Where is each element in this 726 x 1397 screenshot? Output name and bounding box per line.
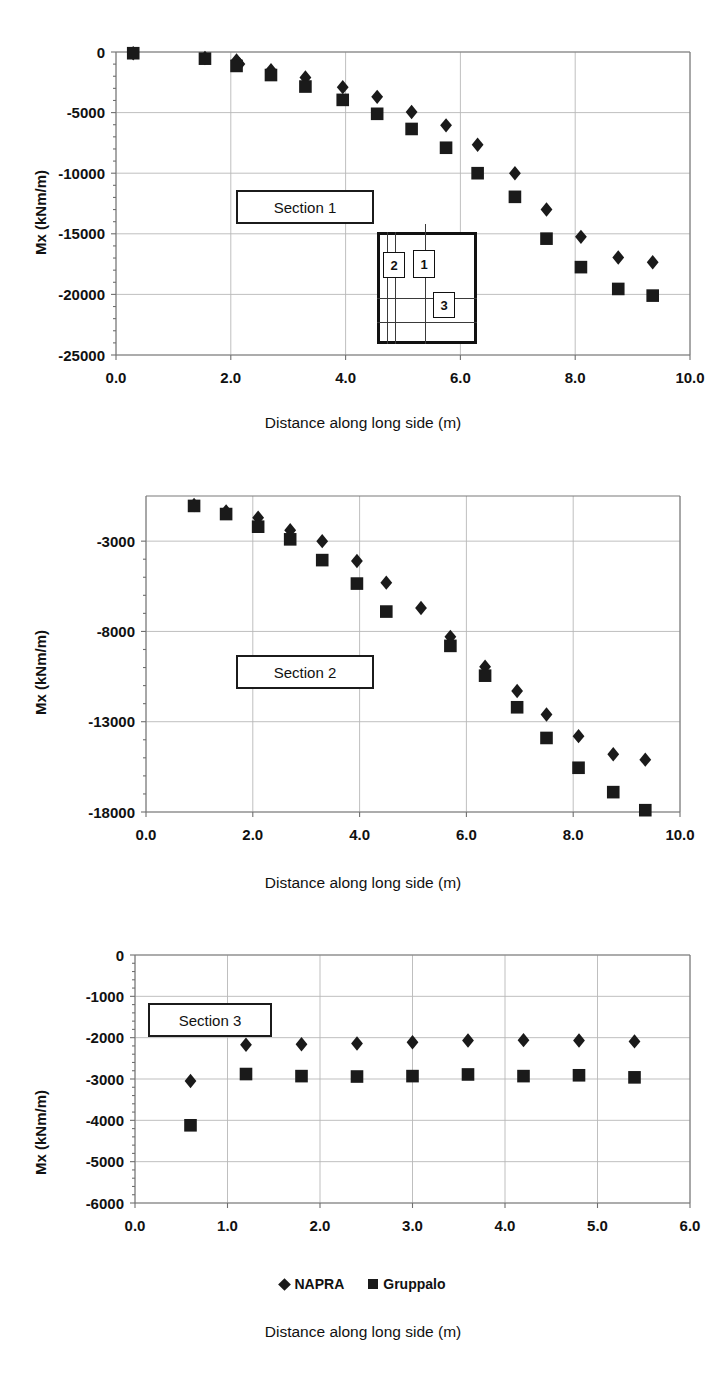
data-point-napra xyxy=(440,118,452,132)
data-point-gruppalo xyxy=(240,1068,253,1081)
data-point-gruppalo xyxy=(230,60,243,73)
x-tick-label: 6.0 xyxy=(456,826,477,843)
data-point-gruppalo xyxy=(479,669,492,682)
data-point-gruppalo xyxy=(509,191,522,204)
data-point-napra xyxy=(607,747,619,761)
data-point-gruppalo xyxy=(639,804,652,817)
data-point-napra xyxy=(541,202,553,216)
y-tick-label: -5000 xyxy=(67,104,105,121)
data-point-gruppalo xyxy=(252,520,265,533)
legend-label: NAPRA xyxy=(294,1276,344,1292)
x-tick-label: 4.0 xyxy=(335,369,356,386)
data-point-napra xyxy=(509,166,521,180)
plot-area-section-1: 0-5000-10000-15000-20000-250000.02.04.06… xyxy=(0,0,726,465)
section-label-box-3: Section 3 xyxy=(148,1003,272,1037)
legend-entry-napra: NAPRA xyxy=(280,1275,344,1292)
data-point-napra xyxy=(518,1033,530,1047)
inset-hline-bottom xyxy=(377,322,477,323)
data-point-gruppalo xyxy=(184,1119,197,1132)
y-tick-label: 0 xyxy=(97,44,105,61)
y-tick-label: -1000 xyxy=(86,988,124,1005)
x-tick-label: 6.0 xyxy=(450,369,471,386)
data-point-napra xyxy=(316,534,328,548)
y-tick-label: -4000 xyxy=(86,1112,124,1129)
data-point-gruppalo xyxy=(316,554,329,567)
legend-entry-gruppalo: Gruppalo xyxy=(368,1275,445,1292)
x-tick-label: 3.0 xyxy=(402,1217,423,1234)
data-point-gruppalo xyxy=(628,1071,641,1084)
x-tick-label: 6.0 xyxy=(680,1217,701,1234)
y-tick-label: -20000 xyxy=(58,286,105,303)
data-point-napra xyxy=(337,80,349,94)
x-tick-label: 8.0 xyxy=(565,369,586,386)
data-point-napra xyxy=(573,1033,585,1047)
y-tick-label: 0 xyxy=(116,947,124,964)
y-tick-label: -2000 xyxy=(86,1029,124,1046)
y-tick-label: -13000 xyxy=(88,713,135,730)
x-tick-label: 4.0 xyxy=(349,826,370,843)
data-point-napra xyxy=(639,752,651,766)
data-point-napra xyxy=(185,1074,197,1088)
data-point-gruppalo xyxy=(607,786,620,799)
y-tick-label: -18000 xyxy=(88,804,135,821)
data-point-gruppalo xyxy=(336,94,349,107)
data-point-gruppalo xyxy=(265,69,278,82)
data-point-napra xyxy=(240,1037,252,1051)
x-tick-label: 8.0 xyxy=(563,826,584,843)
inset-vline-center xyxy=(425,224,426,344)
inset-vline-left xyxy=(387,232,388,344)
y-axis-title-section-3: Mx (kNm/m) xyxy=(32,1090,49,1175)
x-tick-label: 1.0 xyxy=(217,1217,238,1234)
data-point-gruppalo xyxy=(295,1070,308,1083)
section-label-box-2: Section 2 xyxy=(236,655,374,689)
data-point-napra xyxy=(462,1033,474,1047)
square-marker-icon xyxy=(368,1279,378,1289)
y-tick-label: -5000 xyxy=(86,1153,124,1170)
data-point-gruppalo xyxy=(462,1068,475,1081)
figure-legend: NAPRAGruppalo xyxy=(0,1275,726,1292)
x-axis-title-section-2: Distance along long side (m) xyxy=(0,874,726,892)
data-point-gruppalo xyxy=(540,732,553,745)
data-point-napra xyxy=(351,554,363,568)
data-point-napra xyxy=(541,707,553,721)
data-point-napra xyxy=(371,90,383,104)
section-label-box-1: Section 1 xyxy=(236,190,374,224)
data-point-napra xyxy=(612,250,624,264)
y-tick-label: -3000 xyxy=(86,1071,124,1088)
x-tick-label: 5.0 xyxy=(587,1217,608,1234)
data-point-gruppalo xyxy=(612,283,625,296)
y-tick-label: -3000 xyxy=(97,533,135,550)
data-point-gruppalo xyxy=(188,500,201,513)
data-point-napra xyxy=(629,1034,641,1048)
data-point-gruppalo xyxy=(646,289,659,302)
x-axis-title-section-3: Distance along long side (m) xyxy=(0,1323,726,1341)
y-tick-label: -25000 xyxy=(58,347,105,364)
inset-outline xyxy=(377,232,477,344)
legend-label: Gruppalo xyxy=(383,1276,445,1292)
inset-tag-3: 3 xyxy=(433,292,455,318)
y-axis-title-section-2: Mx (kNm/m) xyxy=(32,630,49,715)
x-tick-label: 0.0 xyxy=(125,1217,146,1234)
data-point-gruppalo xyxy=(540,232,553,245)
x-axis-title-section-1: Distance along long side (m) xyxy=(0,414,726,432)
y-axis-title-section-1: Mx (kNm/m) xyxy=(32,170,49,255)
x-tick-label: 10.0 xyxy=(675,369,704,386)
data-point-gruppalo xyxy=(440,141,453,154)
y-tick-label: -8000 xyxy=(97,623,135,640)
data-point-napra xyxy=(573,729,585,743)
data-point-gruppalo xyxy=(471,167,484,180)
x-tick-label: 2.0 xyxy=(220,369,241,386)
data-point-gruppalo xyxy=(299,80,312,93)
data-point-gruppalo xyxy=(444,640,457,653)
data-point-napra xyxy=(575,230,587,244)
plot-area-section-2: -3000-8000-13000-180000.02.04.06.08.010.… xyxy=(0,460,726,925)
chart-panel-section-1: 0-5000-10000-15000-20000-250000.02.04.06… xyxy=(0,0,726,465)
foundation-plan-sketch-icon: 2 1 3 xyxy=(377,232,477,344)
inset-tag-1: 1 xyxy=(413,250,435,278)
y-tick-label: -6000 xyxy=(86,1195,124,1212)
data-point-napra xyxy=(406,105,418,119)
data-point-napra xyxy=(415,601,427,615)
data-point-gruppalo xyxy=(575,261,588,274)
x-tick-label: 2.0 xyxy=(310,1217,331,1234)
inset-tag-2: 2 xyxy=(383,252,405,278)
